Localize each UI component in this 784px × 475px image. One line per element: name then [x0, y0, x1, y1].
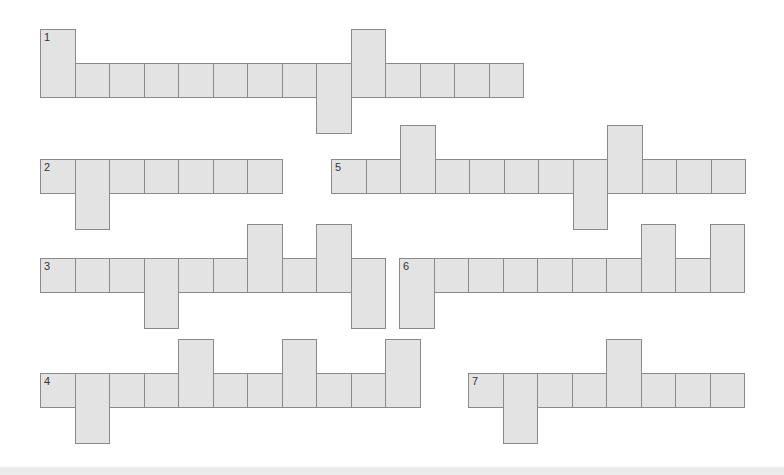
letter-cell[interactable] [400, 125, 436, 195]
letter-cell[interactable] [213, 258, 249, 293]
letter-cell[interactable] [710, 373, 746, 408]
letter-cell[interactable] [178, 339, 214, 409]
letter-cell[interactable] [454, 63, 490, 98]
letter-cell[interactable] [178, 159, 214, 194]
letter-cell[interactable] [607, 125, 643, 195]
letter-cell[interactable] [75, 258, 111, 293]
letter-cell[interactable] [642, 159, 678, 194]
letter-cell[interactable] [641, 373, 677, 408]
letter-cell[interactable]: 2 [40, 159, 76, 194]
bottom-edge-band [0, 467, 784, 475]
letter-cell[interactable]: 1 [40, 29, 76, 99]
letter-cell[interactable] [538, 159, 574, 194]
letter-cell[interactable] [503, 258, 539, 293]
letter-cell[interactable] [572, 258, 608, 293]
letter-cell[interactable] [351, 258, 387, 329]
letter-cell[interactable] [573, 159, 609, 230]
clue-number: 2 [44, 162, 50, 173]
letter-cell[interactable] [247, 159, 283, 194]
letter-cell[interactable] [144, 373, 180, 408]
letter-cell[interactable] [606, 339, 642, 409]
letter-cell[interactable] [178, 258, 214, 293]
letter-cell[interactable] [351, 373, 387, 408]
letter-cell[interactable] [537, 258, 573, 293]
letter-cell[interactable] [711, 159, 747, 194]
clue-number: 1 [44, 32, 50, 43]
letter-cell[interactable] [503, 373, 539, 444]
letter-cell[interactable] [675, 373, 711, 408]
letter-cell[interactable] [109, 258, 145, 293]
letter-cell[interactable] [282, 339, 318, 409]
letter-cell[interactable]: 5 [331, 159, 367, 194]
letter-cell[interactable] [144, 159, 180, 194]
clue-number: 7 [472, 376, 478, 387]
letter-cell[interactable] [710, 224, 746, 294]
clue-number: 5 [335, 162, 341, 173]
letter-cell[interactable]: 3 [40, 258, 76, 293]
letter-cell[interactable] [109, 373, 145, 408]
letter-cell[interactable] [247, 224, 283, 294]
letter-cell[interactable] [504, 159, 540, 194]
letter-cell[interactable] [537, 373, 573, 408]
clue-number: 4 [44, 376, 50, 387]
letter-cell[interactable] [144, 63, 180, 98]
letter-cell[interactable] [351, 29, 387, 99]
letter-cell[interactable] [178, 63, 214, 98]
clue-number: 3 [44, 261, 50, 272]
letter-cell[interactable] [316, 224, 352, 294]
letter-cell[interactable] [75, 159, 111, 230]
letter-cell[interactable] [282, 63, 318, 98]
letter-cell[interactable] [572, 373, 608, 408]
letter-cell[interactable] [366, 159, 402, 194]
letter-cell[interactable] [75, 373, 111, 444]
letter-cell[interactable] [469, 159, 505, 194]
letter-cell[interactable] [213, 373, 249, 408]
letter-cell[interactable] [109, 159, 145, 194]
letter-cell[interactable] [468, 258, 504, 293]
letter-cell[interactable] [606, 258, 642, 293]
letter-cell[interactable] [109, 63, 145, 98]
letter-cell[interactable] [247, 63, 283, 98]
letter-cell[interactable]: 6 [399, 258, 435, 329]
clue-number: 6 [403, 261, 409, 272]
letter-cell[interactable] [316, 373, 352, 408]
letter-cell[interactable] [641, 224, 677, 294]
letter-cell[interactable] [434, 258, 470, 293]
letter-cell[interactable] [282, 258, 318, 293]
letter-cell[interactable] [213, 63, 249, 98]
letter-cell[interactable] [435, 159, 471, 194]
letter-cell[interactable] [385, 63, 421, 98]
letter-cell[interactable] [675, 258, 711, 293]
letter-cell[interactable] [316, 63, 352, 134]
letter-cell[interactable] [144, 258, 180, 329]
letter-cell[interactable]: 4 [40, 373, 76, 408]
letter-cell[interactable]: 7 [468, 373, 504, 408]
letter-cell[interactable] [247, 373, 283, 408]
letter-cell[interactable] [213, 159, 249, 194]
letter-cell[interactable] [75, 63, 111, 98]
letter-cell[interactable] [489, 63, 525, 98]
letter-cell[interactable] [385, 339, 421, 409]
letter-cell[interactable] [420, 63, 456, 98]
letter-cell[interactable] [676, 159, 712, 194]
